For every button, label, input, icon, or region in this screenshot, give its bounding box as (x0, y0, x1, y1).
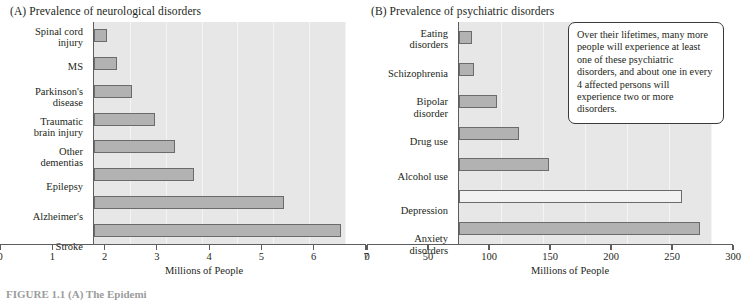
x-axis-tick-label: 1 (50, 251, 55, 262)
bar (459, 158, 549, 171)
chart-neurological-disorders: Spinal cord injuryMSParkinson's diseaseT… (0, 22, 366, 262)
y-axis-label: Bipolar disorder (369, 91, 453, 125)
panel-psychiatric: (B) Prevalence of psychiatric disorders … (367, 0, 733, 298)
x-axis-tick-label: 3 (154, 251, 159, 262)
x-axis-tick-label: 4 (207, 251, 212, 262)
x-axis-tick (488, 245, 489, 250)
chart-a-bars (94, 22, 345, 244)
y-axis-label: Alzheimer's (4, 202, 88, 232)
gridline (345, 22, 346, 244)
y-axis-label: Schizophrenia (369, 56, 453, 90)
bar-row (94, 161, 345, 189)
chart-b-x-axis: 050100150200250300 (367, 244, 733, 251)
x-axis-tick (261, 245, 262, 250)
bar (94, 196, 284, 209)
chart-b-y-axis-labels: Eating disordersSchizophreniaBipolar dis… (369, 22, 453, 262)
x-axis-tick-label: 50 (423, 251, 434, 262)
x-axis-tick-label: 250 (664, 251, 680, 262)
x-axis-tick (549, 245, 550, 250)
bar (94, 113, 155, 126)
y-axis-label: Alcohol use (369, 159, 453, 193)
x-axis-tick-label: 5 (259, 251, 264, 262)
bar (94, 85, 132, 98)
bar (459, 31, 472, 44)
bar-row (94, 50, 345, 78)
bar-row (94, 78, 345, 106)
y-axis-label: Other dementias (4, 142, 88, 172)
bar-row (94, 22, 345, 50)
bar-row (94, 105, 345, 133)
x-axis-tick-label: 0 (364, 251, 369, 262)
bar-row (94, 189, 345, 217)
chart-a-plot-area (93, 22, 345, 244)
x-axis-tick (104, 245, 105, 250)
bar-row (459, 212, 711, 244)
chart-a-x-axis: 01234567 (0, 244, 366, 251)
y-axis-label: Drug use (369, 125, 453, 159)
x-axis-tick (156, 245, 157, 250)
y-axis-label: Traumatic brain injury (4, 112, 88, 142)
x-axis-tick (732, 245, 733, 250)
x-axis-tick-label: 100 (481, 251, 497, 262)
bar (94, 140, 175, 153)
y-axis-label: Spinal cord injury (4, 22, 88, 52)
x-axis-tick-label: 0 (0, 251, 3, 262)
bar (459, 95, 497, 108)
panel-b-title: (B) Prevalence of psychiatric disorders (371, 5, 554, 17)
x-axis-tick (209, 245, 210, 250)
y-axis-label: Depression (369, 193, 453, 227)
bar-row (94, 216, 345, 244)
chart-a-y-axis-labels: Spinal cord injuryMSParkinson's diseaseT… (4, 22, 88, 262)
y-axis-label: Epilepsy (4, 172, 88, 202)
callout-box: Over their lifetimes, many more people w… (568, 22, 724, 124)
x-axis-tick (610, 245, 611, 250)
bar (459, 190, 682, 203)
bar (94, 57, 117, 70)
x-axis-tick (52, 245, 53, 250)
x-axis-tick (366, 245, 367, 250)
bar (459, 63, 474, 76)
x-axis-tick (0, 245, 1, 250)
panel-neurological: (A) Prevalence of neurological disorders… (0, 0, 366, 298)
bar (94, 168, 194, 181)
bar (459, 222, 700, 235)
chart-a-x-axis-title: Millions of People (0, 265, 366, 276)
panel-a-title: (A) Prevalence of neurological disorders (10, 5, 201, 17)
y-axis-label: Eating disorders (369, 22, 453, 56)
x-axis-tick-label: 150 (542, 251, 558, 262)
x-axis-tick (427, 245, 428, 250)
x-axis-tick-label: 200 (603, 251, 619, 262)
y-axis-label: Parkinson's disease (4, 82, 88, 112)
bar (94, 224, 341, 237)
x-axis-tick-label: 300 (725, 251, 741, 262)
y-axis-label: MS (4, 52, 88, 82)
bar-row (94, 133, 345, 161)
x-axis-tick-label: 2 (102, 251, 107, 262)
bar (94, 29, 107, 42)
bar-row (459, 181, 711, 213)
x-axis-tick-label: 6 (311, 251, 316, 262)
bar-row (459, 149, 711, 181)
figure-caption: FIGURE 1.1 (A) The Epidemi (6, 288, 147, 300)
x-axis-tick (313, 245, 314, 250)
chart-b-x-axis-title: Millions of People (367, 265, 733, 276)
x-axis-tick (671, 245, 672, 250)
bar (459, 127, 519, 140)
